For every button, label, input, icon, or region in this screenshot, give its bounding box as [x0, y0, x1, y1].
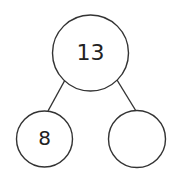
part-value-left: 8 — [38, 126, 51, 150]
connector-right — [117, 80, 136, 111]
whole-value: 13 — [77, 40, 105, 65]
connector-left — [48, 80, 65, 111]
number-bond-diagram: 13 8 — [0, 0, 179, 181]
part-circle-right[interactable] — [109, 111, 166, 168]
